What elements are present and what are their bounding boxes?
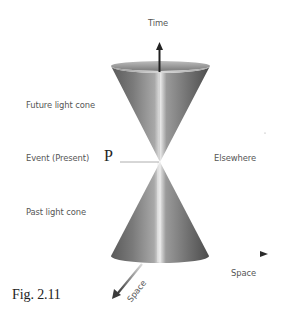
speck [264,132,265,133]
space-x-axis-arrow [208,251,268,257]
future-light-cone-label: Future light cone [26,100,95,110]
event-marker-p: P [104,147,113,165]
elsewhere-label: Elsewhere [214,153,256,163]
future-light-cone [111,61,210,162]
past-light-cone [111,162,209,263]
space-x-axis-label: Space [231,268,256,278]
figure-caption: Fig. 2.11 [12,287,61,303]
event-present-label: Event (Present) [26,153,89,163]
time-axis-label: Time [148,18,168,28]
past-light-cone-label: Past light cone [26,207,86,217]
light-cone-diagram: Time Future light cone Event (Present) P… [0,0,281,322]
